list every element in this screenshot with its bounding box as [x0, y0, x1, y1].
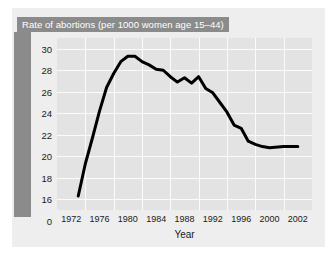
x-tick-label: 1976 [89, 214, 109, 224]
x-tick-label: 2002 [288, 214, 308, 224]
x-tick-label: 1988 [174, 214, 194, 224]
x-tick-label: 1980 [118, 214, 138, 224]
y-tick-label: 16 [41, 194, 52, 205]
left-accent-band [14, 32, 31, 217]
x-tick-label: 1972 [61, 214, 81, 224]
plot-area: 01618202224262830 1972197619801984198819… [57, 38, 312, 210]
y-tick-label: 24 [41, 108, 52, 119]
chart-title: Rate of abortions (per 1000 women age 15… [22, 17, 224, 32]
x-tick-label: 1992 [203, 214, 223, 224]
y-tick-label: 0 [47, 216, 52, 227]
chart-title-bar: Rate of abortions (per 1000 women age 15… [17, 17, 229, 32]
x-tick-label: 1996 [231, 214, 251, 224]
chart-figure: Rate of abortions (per 1000 women age 15… [12, 8, 325, 247]
y-tick-label: 30 [41, 43, 52, 54]
series-polyline [78, 56, 298, 196]
x-axis-title: Year [174, 229, 194, 240]
y-tick-label: 20 [41, 151, 52, 162]
y-tick-label: 22 [41, 129, 52, 140]
x-tick-label: 1984 [146, 214, 166, 224]
y-tick-label: 26 [41, 86, 52, 97]
y-tick-label: 28 [41, 65, 52, 76]
y-tick-label: 18 [41, 172, 52, 183]
plot-wrapper: 01618202224262830 1972197619801984198819… [31, 32, 320, 217]
abortion-rate-line-series [57, 38, 312, 210]
x-tick-label: 2000 [259, 214, 279, 224]
